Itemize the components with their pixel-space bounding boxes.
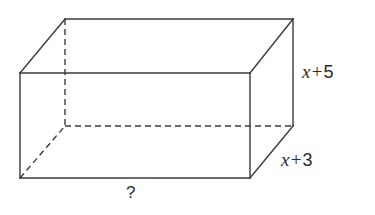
prism-figure: x+5 x+3 ?	[0, 0, 375, 215]
height-variable: x	[302, 61, 311, 82]
top-right-diagonal-edge	[250, 19, 293, 73]
height-number: 5	[324, 62, 334, 82]
solid-edges-group	[20, 19, 293, 178]
top-left-diagonal-edge	[20, 19, 65, 73]
rectangular-prism-drawing	[0, 0, 375, 215]
depth-number: 3	[303, 150, 313, 170]
depth-operator: +	[290, 149, 303, 170]
depth-variable: x	[281, 149, 290, 170]
height-operator: +	[311, 61, 324, 82]
hidden-edges-group	[20, 19, 293, 178]
bottom-left-diagonal-hidden-edge	[20, 126, 65, 178]
depth-dimension-label: x+3	[281, 150, 313, 169]
height-dimension-label: x+5	[302, 62, 334, 81]
unknown-dimension-label: ?	[126, 184, 136, 201]
